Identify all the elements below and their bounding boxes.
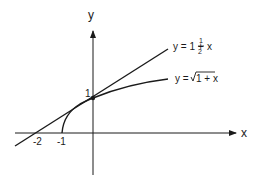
tangent-line-label: y = 1 + 1 2 x	[173, 37, 212, 55]
fraction-numerator: 1	[199, 37, 203, 44]
fraction-denominator: 2	[198, 48, 202, 55]
svg-text:y =: y =	[175, 73, 189, 84]
svg-text:1 + x: 1 + x	[196, 73, 218, 84]
svg-text:x: x	[207, 41, 212, 52]
x-tick-label-minus-1: -1	[57, 136, 66, 147]
tangent-point-dot	[91, 96, 95, 100]
x-axis-label: x	[241, 126, 247, 140]
x-tick-label-minus-2: -2	[33, 136, 42, 147]
sqrt-curve-label: y = 1 + x	[175, 72, 218, 84]
y-tick-label-1: 1	[85, 88, 91, 99]
linear-approximation-diagram: y x -2 -1 1 y = 1 + 1 2 x y = 1 + x	[0, 0, 259, 183]
sqrt-curve	[62, 79, 168, 133]
y-axis-label: y	[88, 8, 94, 22]
